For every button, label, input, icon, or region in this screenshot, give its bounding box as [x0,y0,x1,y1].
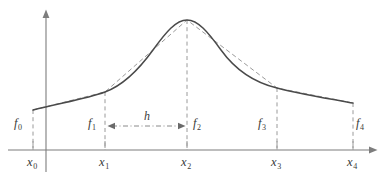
x-tick-sub-x1: 1 [105,162,109,171]
f-label-sub-f4: 4 [360,123,364,132]
f-label-sub-f3: 3 [262,123,266,132]
f-label-f1: f1 [88,117,96,130]
h-measure-right-arrowhead-icon [178,123,186,129]
x-tick-sub-x4: 4 [353,162,357,171]
x-tick-base-x4: x [347,155,353,169]
numerical-integration-figure: x0 x1 x2 x3 x4 f0 f1 f2 f3 f4 h [0,0,387,181]
x-tick-label-x3: x3 [271,156,281,169]
x-tick-sub-x3: 3 [277,162,281,171]
f-label-f3: f3 [258,117,266,130]
f-label-f0: f0 [14,117,22,130]
piecewise-linear-chords [33,20,353,110]
x-axis-arrowhead-icon [369,147,378,154]
x-tick-base-x1: x [99,155,105,169]
h-step-size-label: h [144,110,150,122]
smooth-curve [33,20,353,110]
figure-canvas [0,0,387,181]
x-tick-sub-x2: 2 [187,162,191,171]
x-tick-sub-x0: 0 [33,162,37,171]
f-label-f4: f4 [356,117,364,130]
h-measure-left-arrowhead-icon [108,123,116,129]
f-label-sub-f1: 1 [92,123,96,132]
x-tick-base-x0: x [27,155,33,169]
x-tick-label-x2: x2 [181,156,191,169]
x-tick-label-x1: x1 [99,156,109,169]
x-tick-base-x2: x [181,155,187,169]
x-tick-label-x4: x4 [347,156,357,169]
f-label-sub-f0: 0 [18,123,22,132]
x-tick-label-x0: x0 [27,156,37,169]
f-label-sub-f2: 2 [197,123,201,132]
y-axis-arrowhead-icon [43,10,50,19]
f-label-f2: f2 [193,117,201,130]
x-tick-base-x3: x [271,155,277,169]
